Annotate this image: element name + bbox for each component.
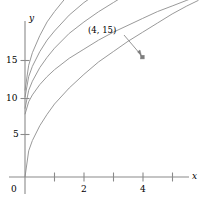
- plot-canvas: [0, 0, 204, 199]
- data-point-marker: [141, 55, 145, 59]
- graph-figure: y x 0 5 10 15 2 4 (4, 15): [0, 0, 204, 199]
- curve-1: [25, 0, 199, 177]
- curve-5: [25, 0, 193, 90]
- curve-group: [25, 0, 199, 177]
- curve-4: [25, 0, 199, 97]
- annotation-group: [124, 35, 144, 59]
